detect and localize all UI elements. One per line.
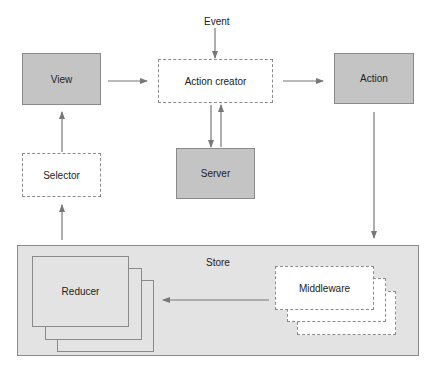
arrows-layer [0,0,435,371]
